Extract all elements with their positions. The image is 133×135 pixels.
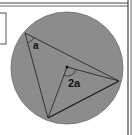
central-angle-label: 2a: [68, 77, 81, 89]
center-dot: [66, 66, 69, 69]
diagram-frame: a 2a: [0, 0, 133, 135]
answer-box[interactable]: [0, 13, 6, 44]
circle-theorem-diagram: a 2a: [0, 0, 133, 135]
inscribed-angle-label: a: [33, 40, 39, 51]
